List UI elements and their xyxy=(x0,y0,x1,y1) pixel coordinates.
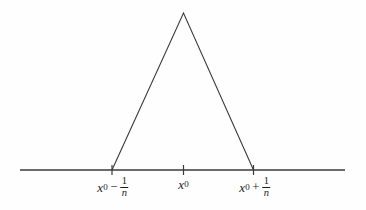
label-left-fraction: 1 n xyxy=(120,176,128,199)
label-right-fraction-numerator: 1 xyxy=(263,176,270,187)
label-left-variable: x xyxy=(97,181,103,194)
label-left-fraction-numerator: 1 xyxy=(121,176,128,187)
label-right-variable: x xyxy=(239,181,245,194)
label-left-fraction-denominator: n xyxy=(121,188,128,199)
label-right-fraction-denominator: n xyxy=(263,188,270,199)
label-right-fraction: 1 n xyxy=(262,176,270,199)
label-center-subscript: 0 xyxy=(184,180,189,189)
label-right-subscript: 0 xyxy=(245,183,250,192)
figure-container: x0 − 1 n x0 x0 + 1 n xyxy=(0,0,366,210)
axis-label-left: x0 − 1 n xyxy=(97,176,129,199)
axis-label-center: x0 xyxy=(178,178,188,191)
label-left-subscript: 0 xyxy=(103,183,108,192)
label-center-variable: x xyxy=(178,178,184,191)
label-right-operator: + xyxy=(252,181,259,194)
axis-label-right: x0 + 1 n xyxy=(239,176,271,199)
label-left-operator: − xyxy=(110,181,117,194)
